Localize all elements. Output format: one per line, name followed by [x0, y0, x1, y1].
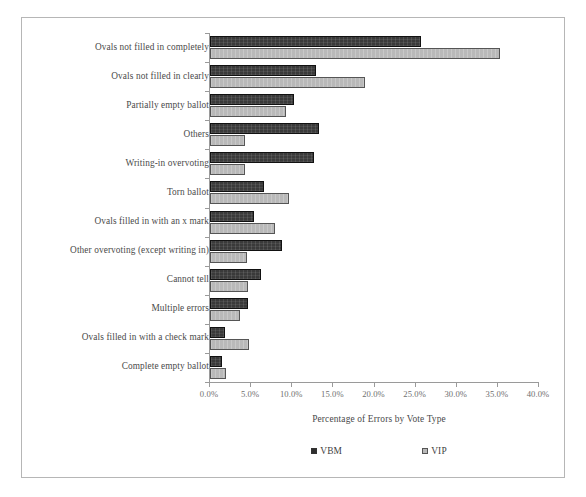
category-label: Torn ballot	[167, 187, 209, 197]
bar-vip	[210, 48, 500, 59]
bar-vip	[210, 339, 249, 350]
legend-label-vip: VIP	[431, 446, 447, 456]
category-axis-tick	[205, 237, 210, 238]
category-axis-tick	[205, 382, 210, 383]
category-axis-tick	[205, 33, 210, 34]
category-label: Others	[184, 129, 209, 139]
bar-vbm	[210, 211, 254, 222]
x-axis-tick	[497, 382, 498, 387]
x-axis-tick-label: 15.0%	[312, 389, 352, 399]
value-axis-area: 0.0%5.0%10.0%15.0%20.0%25.0%30.0%35.0%40…	[209, 18, 566, 479]
chart-legend: VBM VIP	[209, 446, 549, 456]
bar-vip	[210, 368, 226, 379]
bar-vbm	[210, 327, 225, 338]
bar-vbm	[210, 152, 314, 163]
bar-vip	[210, 252, 247, 263]
bar-vbm	[210, 65, 316, 76]
category-axis-tick	[205, 91, 210, 92]
category-label: Partially empty ballot	[126, 100, 209, 110]
legend-entry-vbm: VBM	[311, 446, 342, 456]
legend-swatch-icon-vbm	[311, 448, 317, 454]
bar-vip	[210, 310, 240, 321]
x-axis-tick-label: 30.0%	[436, 389, 476, 399]
category-axis-labels: Ovals not filled in completelyOvals not …	[26, 18, 209, 479]
bar-vbm	[210, 269, 261, 280]
x-axis-tick	[250, 382, 251, 387]
category-axis-tick	[205, 295, 210, 296]
bar-vbm	[210, 356, 222, 367]
chart-frame: Ovals not filled in completelyOvals not …	[21, 17, 565, 478]
x-axis-tick	[374, 382, 375, 387]
category-label: Ovals not filled in completely	[95, 42, 209, 52]
bar-vip	[210, 193, 289, 204]
category-axis-tick	[205, 208, 210, 209]
bar-vbm	[210, 94, 294, 105]
category-label: Ovals filled in with an x mark	[94, 216, 209, 226]
category-axis-tick	[205, 266, 210, 267]
bar-vbm	[210, 240, 282, 251]
category-axis-tick	[205, 324, 210, 325]
legend-entry-vip: VIP	[422, 446, 447, 456]
x-axis-tick-label: 20.0%	[354, 389, 394, 399]
x-axis-tick-label: 0.0%	[189, 389, 229, 399]
legend-swatch-icon-vip	[422, 448, 428, 454]
category-axis-tick	[205, 178, 210, 179]
bar-vbm	[210, 36, 421, 47]
category-axis-tick	[205, 120, 210, 121]
category-label: Other overvoting (except writing in)	[70, 245, 209, 255]
x-axis-tick-label: 10.0%	[271, 389, 311, 399]
bar-vip	[210, 106, 286, 117]
category-label: Writing-in overvoting	[125, 158, 209, 168]
category-axis-tick	[205, 62, 210, 63]
category-label: Cannot tell	[167, 274, 209, 284]
x-axis-title: Percentage of Errors by Vote Type	[209, 414, 549, 424]
category-label: Multiple errors	[151, 303, 209, 313]
x-axis-tick	[538, 382, 539, 387]
category-label: Ovals not filled in clearly	[111, 71, 209, 81]
bar-vbm	[210, 181, 264, 192]
category-label: Complete empty ballot	[122, 361, 209, 371]
x-axis-tick	[291, 382, 292, 387]
clipped-header-text	[0, 0, 586, 4]
x-axis-tick	[415, 382, 416, 387]
bar-vip	[210, 135, 245, 146]
plot-area: Ovals not filled in completelyOvals not …	[22, 18, 566, 479]
legend-label-vbm: VBM	[320, 446, 342, 456]
bar-vip	[210, 223, 275, 234]
bar-vip	[210, 164, 245, 175]
x-axis-tick	[456, 382, 457, 387]
bar-vip	[210, 281, 248, 292]
bar-vip	[210, 77, 365, 88]
bar-vbm	[210, 298, 248, 309]
x-axis-tick-label: 5.0%	[230, 389, 270, 399]
x-axis-tick	[332, 382, 333, 387]
category-label: Ovals filled in with a check mark	[82, 332, 209, 342]
x-axis-tick-label: 40.0%	[518, 389, 558, 399]
category-axis-tick	[205, 353, 210, 354]
x-axis-tick-label: 25.0%	[395, 389, 435, 399]
bar-vbm	[210, 123, 319, 134]
x-axis-tick-label: 35.0%	[477, 389, 517, 399]
category-axis-tick	[205, 149, 210, 150]
